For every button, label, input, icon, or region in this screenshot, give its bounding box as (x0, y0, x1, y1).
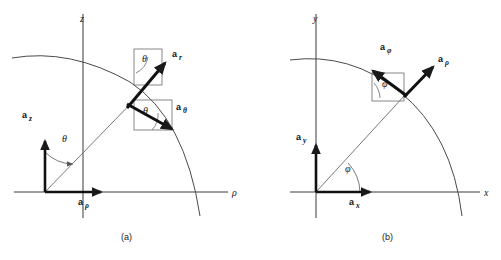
coordinate-diagrams: z ρ a z a ρ a r a θ θ θ θ y x a y a x a … (0, 0, 501, 260)
panel-b-angle-phi-vector: φ (382, 78, 388, 89)
panel-b-label-a-x-base: a (349, 197, 355, 207)
panel-a-caption: (a) (121, 232, 132, 242)
panel-b-label-a-phi: a φ (380, 42, 392, 55)
panel-a-label-a-theta-sub: θ (183, 106, 187, 115)
panel-a-label-a-z: a z (22, 110, 32, 123)
panel-b-label-a-y-base: a (296, 132, 302, 142)
panel-b-label-a-rho-sub: ρ (444, 58, 449, 67)
panel-b-label-a-phi-base: a (380, 42, 386, 52)
panel-b-label-a-rho-base: a (438, 54, 444, 64)
panel-a-label-a-r-sub: r (179, 53, 182, 62)
panel-b-label-a-x-sub: x (355, 201, 360, 210)
panel-a-axis-label-rho: ρ (231, 187, 237, 198)
panel-a-label-a-z-sub: z (28, 114, 32, 123)
panel-b-label-a-phi-sub: φ (387, 46, 392, 55)
panel-b-vector-a-phi (373, 71, 407, 96)
panel-a (12, 14, 228, 218)
panel-a-theta-origin-arc (45, 152, 73, 164)
panel-b-label-a-y: a y (296, 132, 307, 145)
panel-a-angle-theta-origin: θ (62, 133, 67, 144)
panel-a-upper-angle-box (134, 49, 162, 85)
panel-a-label-a-theta: a θ (176, 102, 187, 115)
panel-a-label-a-r: a r (172, 49, 182, 62)
panel-a-angle-theta-upper: θ (142, 53, 147, 64)
figure-container: z ρ a z a ρ a r a θ θ θ θ y x a y a x a … (0, 0, 501, 260)
panel-b-axis-label-y: y (312, 13, 318, 24)
panel-a-label-a-rho-sub: ρ (84, 201, 89, 210)
panel-b-phi-arc (374, 83, 380, 98)
panel-b-vector-a-rho (404, 67, 433, 97)
panel-b-caption: (b) (382, 232, 393, 242)
panel-a-label-a-theta-base: a (176, 102, 182, 112)
panel-b-label-a-rho: a ρ (438, 54, 449, 67)
panel-a-vector-a-r (127, 63, 165, 108)
panel-a-label-a-z-base: a (22, 110, 28, 120)
panel-b-radial-line (316, 95, 405, 192)
panel-a-axis-label-z: z (79, 13, 84, 24)
panel-b-label-a-x: a x (349, 197, 360, 210)
panel-b-axis-label-x: x (483, 187, 489, 198)
panel-a-label-a-r-base: a (172, 49, 178, 59)
panel-b-angle-phi-origin: φ (345, 163, 351, 174)
panel-a-angle-theta-lower: θ (143, 105, 148, 116)
panel-b-label-a-y-sub: y (302, 136, 307, 145)
